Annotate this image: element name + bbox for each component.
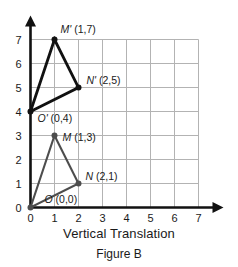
y-tick-6: 6 xyxy=(15,58,21,70)
point-label-M-prime: M' (1,7) xyxy=(61,23,96,35)
vertex-N-prime xyxy=(76,85,82,91)
y-tick-1: 1 xyxy=(15,178,21,190)
x-tick-5: 5 xyxy=(147,212,153,224)
point-label-N-prime: N' (2,5) xyxy=(87,74,121,86)
x-tick-0: 0 xyxy=(27,212,33,224)
vertex-N xyxy=(76,181,82,187)
y-tick-5: 5 xyxy=(15,82,21,94)
x-tick-6: 6 xyxy=(171,212,177,224)
x-tick-7: 7 xyxy=(195,212,201,224)
chart-caption-figure: Figure B xyxy=(0,247,238,261)
gridlines xyxy=(31,40,199,208)
point-label-O-prime: O' (0,4) xyxy=(38,112,73,124)
vertex-M xyxy=(52,133,58,139)
x-tick-1: 1 xyxy=(51,212,57,224)
x-tick-2: 2 xyxy=(75,212,81,224)
y-tick-0: 0 xyxy=(15,202,21,214)
y-tick-3: 3 xyxy=(15,130,21,142)
vertex-M-prime xyxy=(52,37,58,43)
y-tick-4: 4 xyxy=(15,106,21,118)
point-label-O: O (0,0) xyxy=(45,193,78,205)
y-tick-2: 2 xyxy=(15,154,21,166)
y-tick-7: 7 xyxy=(15,34,21,46)
chart-caption-title: Vertical Translation xyxy=(0,226,238,241)
figure-container: 0123456712345670 O (0,0)M (1,3)N (2,1)O'… xyxy=(0,0,238,267)
x-tick-4: 4 xyxy=(123,212,129,224)
tick-labels: 0123456712345670 xyxy=(15,34,201,224)
vertex-O xyxy=(28,205,34,211)
point-label-M: M (1,3) xyxy=(63,131,96,143)
vertex-O-prime xyxy=(28,109,34,115)
point-label-N: N (2,1) xyxy=(86,170,118,182)
x-tick-3: 3 xyxy=(99,212,105,224)
